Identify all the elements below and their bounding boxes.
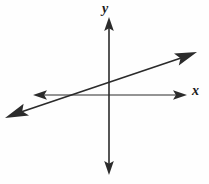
graph-canvas (0, 0, 209, 184)
coordinate-plane-figure: y x (0, 0, 209, 184)
x-axis-label: x (192, 84, 199, 98)
plotted-line (18, 57, 184, 113)
y-axis-label: y (102, 2, 108, 16)
